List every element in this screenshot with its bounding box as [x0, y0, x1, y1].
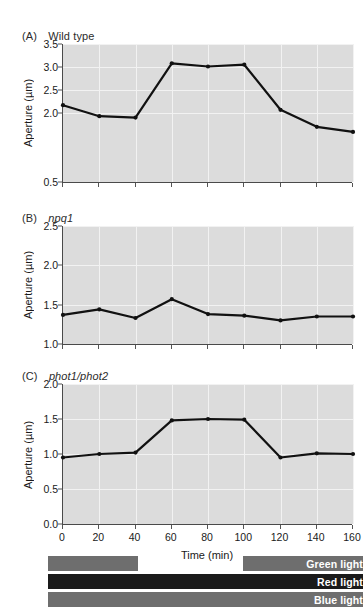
x-tick-mark	[207, 345, 208, 349]
y-tick-label: 2.5	[43, 220, 58, 232]
data-point-marker	[97, 307, 101, 311]
data-point-marker	[133, 316, 137, 320]
data-point-marker	[351, 314, 355, 318]
treatment-bar-row: Red light	[0, 574, 363, 589]
treatment-bar-label: Red light	[317, 576, 363, 588]
data-point-marker	[278, 455, 282, 459]
x-tick-mark	[171, 183, 172, 187]
x-tick-mark	[135, 345, 136, 349]
x-tick-mark	[316, 525, 317, 529]
data-point-marker	[278, 318, 282, 322]
y-tick-label: 0.5	[43, 176, 58, 188]
x-tick-mark	[316, 345, 317, 349]
x-tick-mark	[352, 183, 353, 187]
data-point-marker	[170, 297, 174, 301]
x-tick-mark	[207, 183, 208, 187]
x-tick-mark	[280, 525, 281, 529]
data-point-marker	[206, 312, 210, 316]
data-point-marker	[170, 418, 174, 422]
x-tick-mark	[280, 345, 281, 349]
data-point-marker	[206, 64, 210, 68]
data-point-marker	[315, 125, 319, 129]
x-tick-mark	[98, 525, 99, 529]
treatment-bar-label: Green light	[306, 558, 363, 570]
panel-c-title: (C) phot1/phot2	[22, 370, 108, 382]
x-tick-mark	[316, 183, 317, 187]
y-tick-label: 0.5	[43, 483, 58, 495]
panel-b-plot	[62, 226, 353, 344]
data-point-marker	[133, 116, 137, 120]
data-point-marker	[242, 418, 246, 422]
data-series-a	[63, 44, 353, 182]
panel-b-tag: (B)	[22, 212, 37, 224]
data-point-marker	[97, 114, 101, 118]
y-tick-label: 2.0	[43, 107, 58, 119]
data-series-c	[63, 384, 353, 524]
x-tick-mark	[98, 183, 99, 187]
y-tick-label: 0.0	[43, 518, 58, 530]
x-tick-label: 0	[59, 531, 65, 543]
x-tick-label: 120	[271, 531, 289, 543]
data-point-marker	[242, 63, 246, 67]
treatment-legend: Green lightRed lightBlue light	[0, 556, 363, 606]
x-tick-mark	[62, 183, 63, 187]
treatment-bar-segment	[48, 574, 363, 589]
data-point-marker	[61, 103, 65, 107]
x-tick-mark	[243, 345, 244, 349]
panel-a-plot	[62, 44, 353, 182]
panel-b-ylabel: Aperture (µm)	[22, 234, 34, 336]
series-line	[63, 419, 353, 458]
y-tick-label: 1.5	[43, 299, 58, 311]
x-tick-label: 80	[201, 531, 213, 543]
x-tick-label: 140	[307, 531, 325, 543]
y-tick-label: 1.0	[43, 448, 58, 460]
x-tick-label: 160	[343, 531, 361, 543]
panel-c-plot	[62, 384, 353, 524]
x-tick-mark	[135, 525, 136, 529]
data-point-marker	[133, 451, 137, 455]
y-tick-label: 2.0	[43, 259, 58, 271]
data-point-marker	[61, 313, 65, 317]
x-tick-label: 60	[165, 531, 177, 543]
y-tick-label: 2.0	[43, 378, 58, 390]
data-point-marker	[206, 417, 210, 421]
series-line	[63, 63, 353, 132]
data-point-marker	[97, 452, 101, 456]
treatment-bar-label: Blue light	[314, 594, 363, 606]
series-line	[63, 299, 353, 320]
gridline-vertical	[353, 44, 354, 182]
data-point-marker	[170, 61, 174, 65]
data-point-marker	[242, 314, 246, 318]
x-tick-mark	[243, 525, 244, 529]
panel-a-tag: (A)	[22, 30, 37, 42]
gridline-vertical	[353, 226, 354, 344]
x-tick-mark	[243, 183, 244, 187]
data-point-marker	[61, 455, 65, 459]
data-point-marker	[315, 451, 319, 455]
x-tick-mark	[135, 183, 136, 187]
data-point-marker	[351, 452, 355, 456]
y-tick-label: 3.5	[43, 38, 58, 50]
x-tick-mark	[352, 345, 353, 349]
x-tick-mark	[62, 525, 63, 529]
x-tick-mark	[207, 525, 208, 529]
x-tick-mark	[98, 345, 99, 349]
x-tick-mark	[171, 345, 172, 349]
y-tick-label: 3.0	[43, 61, 58, 73]
x-tick-mark	[62, 345, 63, 349]
y-tick-label: 1.0	[43, 338, 58, 350]
x-tick-mark	[280, 183, 281, 187]
x-tick-label: 100	[235, 531, 253, 543]
x-tick-label: 40	[129, 531, 141, 543]
panel-c-tag: (C)	[22, 370, 38, 382]
x-tick-label: 20	[92, 531, 104, 543]
y-tick-label: 2.5	[43, 84, 58, 96]
x-tick-mark	[352, 525, 353, 529]
x-tick-mark	[171, 525, 172, 529]
data-point-marker	[315, 314, 319, 318]
panel-c-ylabel: Aperture (µm)	[22, 400, 34, 510]
treatment-bar-row: Green light	[0, 556, 363, 571]
treatment-bar-row: Blue light	[0, 592, 363, 607]
y-tick-label: 1.5	[43, 413, 58, 425]
